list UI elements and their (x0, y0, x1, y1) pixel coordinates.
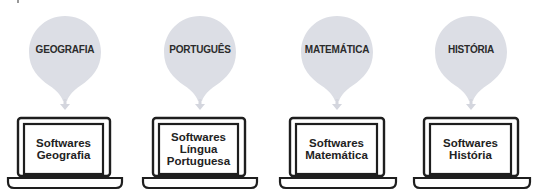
screen-line: Língua (180, 143, 218, 155)
screen-text: Softwares História (431, 125, 510, 173)
screen-line: Matemática (305, 149, 368, 161)
screen-line: Geografia (37, 149, 91, 161)
subject-column-historia: HISTÓRIA Softwares História (406, 0, 536, 195)
subject-column-matematica: MATEMÁTICA Softwares Matemática (272, 0, 402, 195)
screen-line: Softwares (171, 131, 226, 143)
laptop: Softwares Geografia (0, 0, 130, 195)
subject-column-portugues: PORTUGUÊS Softwares Língua Portuguesa (135, 0, 265, 195)
screen-line: Softwares (309, 137, 364, 149)
screen-line: Softwares (443, 137, 498, 149)
screen-line: Softwares (36, 137, 91, 149)
screen-text: Softwares Geografia (25, 125, 102, 173)
screen-line: Portuguesa (167, 155, 230, 167)
subject-column-geografia: GEOGRAFIA Softwares Geografia (0, 0, 130, 195)
screen-line: História (449, 149, 492, 161)
screen-text: Softwares Língua Portuguesa (160, 125, 237, 173)
laptop: Softwares História (406, 0, 536, 195)
screen-text: Softwares Matemática (297, 125, 376, 173)
laptop: Softwares Matemática (272, 0, 402, 195)
laptop: Softwares Língua Portuguesa (135, 0, 265, 195)
